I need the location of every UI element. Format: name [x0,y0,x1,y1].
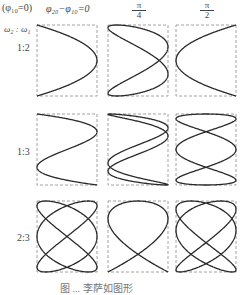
lissajous-panel [176,201,236,272]
lissajous-panel [108,25,168,96]
lissajous-panel [37,25,97,96]
lissajous-curve [108,25,168,96]
panel-dashed-frame [176,201,236,272]
lissajous-curve [37,201,97,272]
lissajous-curve [176,201,236,272]
lissajous-curve [176,114,236,185]
lissajous-curve [37,114,97,185]
lissajous-curve [108,114,168,185]
lissajous-panel [108,114,168,185]
lissajous-curve [37,25,97,96]
lissajous-panel [176,114,236,185]
lissajous-curve [108,201,168,272]
lissajous-panel [108,201,168,272]
lissajous-panel [37,114,97,185]
lissajous-panel [176,25,236,96]
panel-dashed-frame [108,114,168,185]
figure-caption: 图 ... 李萨如图形 [60,280,133,295]
lissajous-curve [176,25,236,96]
lissajous-panel [37,201,97,272]
